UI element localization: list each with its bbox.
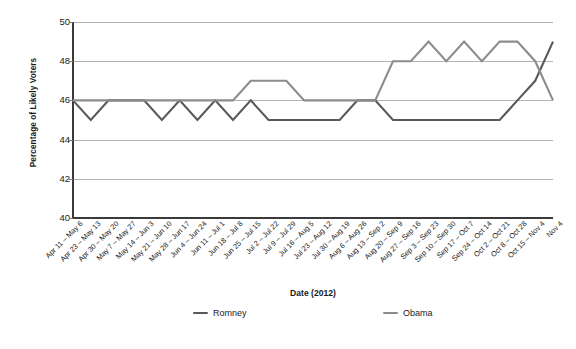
y-tick-mark-46: [69, 100, 73, 101]
series-line-romney: [73, 42, 553, 120]
y-tick-label-42: 42: [44, 174, 70, 184]
y-tick-mark-44: [69, 140, 73, 141]
legend-label: Romney: [213, 308, 247, 318]
y-tick-mark-50: [69, 22, 73, 23]
y-axis-tick-labels: 404244464850: [44, 0, 70, 349]
y-tick-label-40: 40: [44, 213, 70, 223]
y-tick-label-48: 48: [44, 56, 70, 66]
y-tick-mark-42: [69, 179, 73, 180]
x-axis-tick-labels: Apr 11 – May 6Apr 23 – May 13Apr 30 – Ma…: [73, 220, 553, 282]
legend-label: Obama: [403, 308, 433, 318]
y-tick-mark-40: [69, 218, 73, 219]
x-axis-title: Date (2012): [73, 288, 553, 298]
legend-swatch-obama: [383, 312, 398, 315]
series-line-obama: [73, 42, 553, 101]
y-tick-label-50: 50: [44, 17, 70, 27]
legend-item-romney[interactable]: Romney: [193, 308, 247, 318]
chart-legend: RomneyObama: [73, 308, 553, 326]
y-tick-mark-48: [69, 61, 73, 62]
y-axis-title: Percentage of Likely Voters: [29, 18, 38, 208]
legend-swatch-romney: [193, 312, 208, 315]
y-tick-label-44: 44: [44, 135, 70, 145]
legend-item-obama[interactable]: Obama: [383, 308, 433, 318]
y-tick-label-46: 46: [44, 95, 70, 105]
poll-line-chart: Percentage of Likely Voters 404244464850…: [0, 0, 576, 349]
